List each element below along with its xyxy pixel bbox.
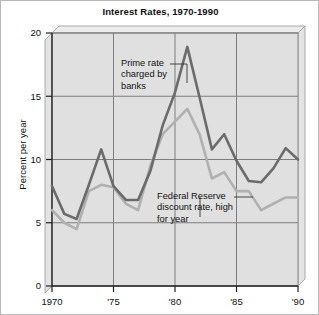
y-tick-label-15: 15 (19, 91, 41, 102)
annotation-fed-line1: Federal Reserve (157, 191, 233, 202)
y-tick-label-0: 0 (19, 280, 41, 291)
panel-3d-left (45, 33, 52, 293)
chart-plot-svg (1, 1, 319, 315)
annotation-prime-line1: Prime rate (121, 58, 167, 69)
annotation-fed-line2: discount rate, high (157, 202, 233, 213)
panel-3d-top (52, 26, 305, 33)
x-tick-label-1975: '75 (99, 296, 129, 307)
x-tick-label-1985: '85 (222, 296, 252, 307)
x-tick-label-1990: '90 (283, 296, 313, 307)
annotation-prime-rate: Prime rate charged by banks (121, 58, 167, 92)
annotation-prime-line2: charged by (121, 69, 167, 80)
annotation-prime-line3: banks (121, 81, 167, 92)
x-tick-label-1980: '80 (160, 296, 190, 307)
y-tick-label-20: 20 (19, 27, 41, 38)
y-tick-label-5: 5 (19, 217, 41, 228)
panel-3d-right (298, 26, 305, 286)
y-tick-label-10: 10 (19, 154, 41, 165)
chart-figure: Interest Rates, 1970-1990 (0, 0, 319, 315)
annotation-fed-discount-rate: Federal Reserve discount rate, high for … (157, 191, 233, 225)
x-tick-marks (52, 286, 298, 292)
annotation-fed-line3: for year (157, 214, 233, 225)
x-tick-label-1970: 1970 (34, 296, 70, 307)
